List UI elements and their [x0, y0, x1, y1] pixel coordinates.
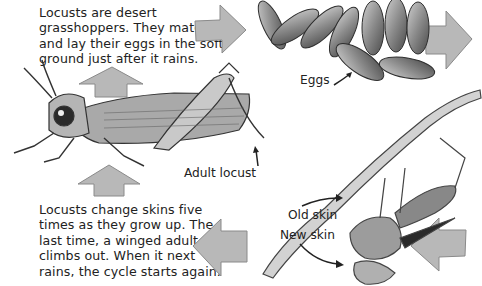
molting-line: Locusts change skins five: [39, 202, 221, 217]
eggs-label: Eggs: [300, 73, 330, 87]
new-skin-pointer-arrow: [298, 242, 346, 270]
old-skin-pointer-arrow: [300, 192, 345, 210]
arrow-right-icon: [193, 3, 248, 55]
new-skin-label: New skin: [280, 228, 335, 242]
adult-locust-label: Adult locust: [184, 166, 256, 180]
arrow-left-icon: [191, 218, 249, 280]
molting-locust-illustration: [255, 88, 482, 286]
adult-locust-illustration: [4, 58, 254, 170]
old-skin-label: Old skin: [288, 208, 337, 222]
eggs-pointer-arrow: [332, 70, 354, 88]
